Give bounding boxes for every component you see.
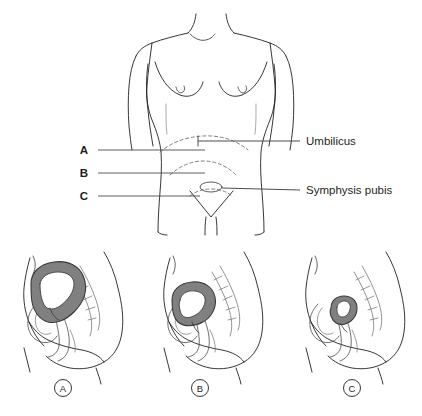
label-b: B xyxy=(80,167,88,179)
label-umbilicus: Umbilicus xyxy=(306,135,356,147)
panel-b-caption-text: B xyxy=(197,383,203,394)
label-symphysis-pubis: Symphysis pubis xyxy=(306,184,393,196)
panel-a-caption-group: A xyxy=(55,380,72,397)
panel-c-caption-text: C xyxy=(349,383,356,394)
label-c: C xyxy=(80,190,88,202)
label-a: A xyxy=(80,144,88,156)
panel-a-caption-text: A xyxy=(60,383,67,394)
uterine-involution-diagram: A B C Umbilicus Symphysis pubis xyxy=(0,0,422,416)
panel-c-caption-group: C xyxy=(344,380,361,397)
diagram-background xyxy=(0,0,422,416)
panel-b-caption-group: B xyxy=(192,380,209,397)
